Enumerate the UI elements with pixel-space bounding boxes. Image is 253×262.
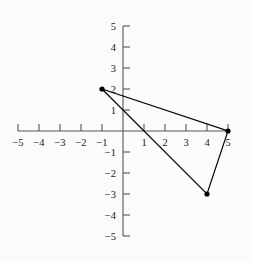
y-label-1: 1 (111, 105, 116, 116)
vertex-point: (4, -3) (204, 191, 209, 196)
x-label-3: 3 (183, 137, 188, 148)
x-label-5: 5 (225, 137, 230, 148)
y-label-4: 4 (111, 42, 117, 53)
x-label-1: 1 (141, 137, 146, 148)
x-label-2: 2 (162, 137, 167, 148)
x-label-minus4: −4 (33, 137, 45, 148)
graph-canvas: −5 −4 −3 −2 −1 1 2 3 4 5 5 4 3 2 1 −1 −2… (0, 0, 253, 262)
y-label-minus3: −3 (105, 189, 116, 200)
y-label-minus2: −2 (105, 168, 116, 179)
y-label-3: 3 (111, 63, 116, 74)
y-label-minus5: −5 (105, 231, 116, 242)
y-label-minus4: −4 (105, 210, 117, 221)
x-label-minus5: −5 (12, 137, 23, 148)
x-label-minus3: −3 (54, 137, 65, 148)
x-label-4: 4 (204, 137, 210, 148)
x-label-minus2: −2 (75, 137, 86, 148)
y-label-minus1: −1 (105, 147, 116, 158)
y-label-5: 5 (111, 21, 116, 32)
vertex-point: (-1, 2) (99, 86, 104, 91)
coordinate-plane-figure: −5 −4 −3 −2 −1 1 2 3 4 5 5 4 3 2 1 −1 −2… (0, 0, 253, 262)
vertex-point: (5, 0) (225, 128, 230, 133)
